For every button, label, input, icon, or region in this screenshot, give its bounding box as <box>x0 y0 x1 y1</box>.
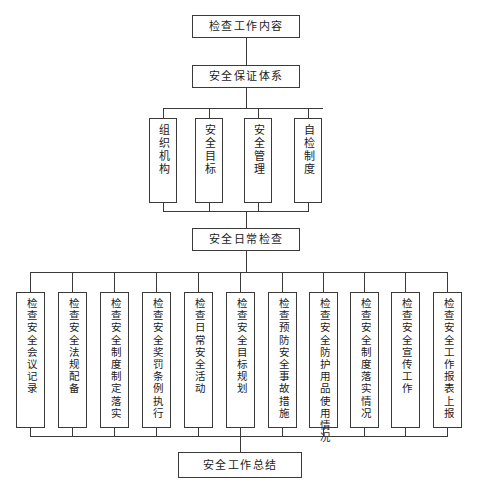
node-label: 检查日常安全活动 <box>193 298 204 396</box>
node-check-safety-system-formulation[interactable]: 检查安全制度制定落实 <box>100 292 129 428</box>
bus-system-children-top <box>163 108 323 109</box>
drop-daily-child-3 <box>114 272 115 292</box>
node-label: 检查安全目标规划 <box>235 298 246 396</box>
node-inspection-work-content[interactable]: 检查工作内容 <box>192 15 300 38</box>
bus-system-children-bottom <box>163 211 309 212</box>
drop-system-child-2 <box>209 108 210 118</box>
node-label: 检查工作内容 <box>209 21 284 32</box>
drop-system-child-4 <box>308 108 309 118</box>
node-label: 安全工作总结 <box>203 460 278 471</box>
drop-daily-child-1 <box>30 272 31 292</box>
node-label: 检查安全制度落实情况 <box>359 298 370 420</box>
node-daily-safety-inspection[interactable]: 安全日常检查 <box>192 228 300 251</box>
connector-system-to-bus <box>246 88 247 108</box>
node-safety-guarantee-system[interactable]: 安全保证体系 <box>192 65 300 88</box>
drop-daily-child-8 <box>323 272 324 292</box>
node-label: 自检制度 <box>302 124 314 176</box>
node-label: 检查安全法规配备 <box>67 298 78 396</box>
drop-daily-child-9 <box>364 272 365 292</box>
node-check-safety-report-submission[interactable]: 检查安全工作报表上报 <box>433 292 462 428</box>
node-self-inspection-system[interactable]: 自检制度 <box>294 118 322 203</box>
node-label: 安全日常检查 <box>209 234 284 245</box>
node-check-safety-regulations-provision[interactable]: 检查安全法规配备 <box>58 292 87 428</box>
drop-daily-child-11 <box>447 272 448 292</box>
drop-daily-child-5 <box>198 272 199 292</box>
drop-daily-child-7 <box>282 272 283 292</box>
node-check-protective-equipment-usage[interactable]: 检查安全防护用品使用情况 <box>309 292 338 428</box>
node-check-accident-prevention-measures[interactable]: 检查预防安全事故措施 <box>268 292 297 428</box>
node-label: 检查预防安全事故措施 <box>277 298 288 420</box>
node-label: 安全管理 <box>252 124 264 176</box>
node-organization-structure[interactable]: 组织机构 <box>149 118 177 203</box>
node-label: 检查安全宣传工作 <box>400 298 411 396</box>
node-label: 检查安全工作报表上报 <box>442 298 453 420</box>
node-label: 检查安全制度制定落实 <box>109 298 120 420</box>
connector-bus-to-summary <box>240 436 241 452</box>
drop-daily-child-6 <box>240 272 241 292</box>
node-label: 检查安全会议记录 <box>25 298 36 396</box>
bus-daily-children-bottom <box>30 436 447 437</box>
drop-system-child-1 <box>163 108 164 118</box>
node-label: 安全目标 <box>203 124 215 176</box>
drop-daily-child-10 <box>405 272 406 292</box>
connector-daily-to-bus <box>246 251 247 272</box>
node-check-safety-meeting-records[interactable]: 检查安全会议记录 <box>16 292 45 428</box>
node-safety-work-summary[interactable]: 安全工作总结 <box>178 452 302 478</box>
connector-title-to-system <box>246 38 247 65</box>
node-label: 组织机构 <box>157 124 169 176</box>
node-check-system-implementation[interactable]: 检查安全制度落实情况 <box>350 292 379 428</box>
connector-bus-to-daily <box>246 211 247 228</box>
drop-daily-child-4 <box>156 272 157 292</box>
node-check-safety-publicity-work[interactable]: 检查安全宣传工作 <box>391 292 420 428</box>
node-check-daily-safety-activities[interactable]: 检查日常安全活动 <box>184 292 213 428</box>
node-safety-objective[interactable]: 安全目标 <box>195 118 223 203</box>
riser-daily-child-11 <box>447 428 448 437</box>
node-check-reward-penalty-execution[interactable]: 检查安全奖罚条例执行 <box>142 292 171 428</box>
drop-daily-child-2 <box>72 272 73 292</box>
bus-daily-children-top <box>30 272 447 273</box>
node-label: 检查安全奖罚条例执行 <box>151 298 162 420</box>
node-check-safety-objective-planning[interactable]: 检查安全目标规划 <box>226 292 255 428</box>
node-label: 安全保证体系 <box>209 71 284 82</box>
node-safety-management[interactable]: 安全管理 <box>244 118 272 203</box>
drop-system-child-3 <box>258 108 259 118</box>
flowchart-canvas: 检查工作内容 安全保证体系 组织机构 安全目标 安全管理 自检制度 安全日常检查 <box>0 0 480 500</box>
node-label: 检查安全防护用品使用情况 <box>318 298 329 444</box>
